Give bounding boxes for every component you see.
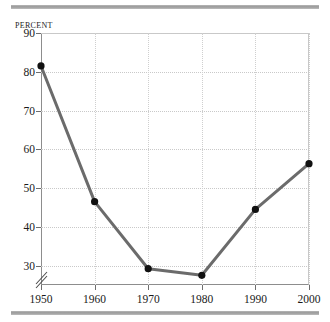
- y-tick-label: 60: [24, 143, 36, 155]
- x-tick-mark: [309, 285, 310, 290]
- data-point-marker: [198, 272, 205, 279]
- x-tick-label: 1990: [244, 293, 267, 305]
- data-point-marker: [305, 160, 312, 167]
- top-rule: [11, 5, 319, 9]
- x-tick-mark: [148, 285, 149, 290]
- data-point-marker: [145, 265, 152, 272]
- data-series-line: [41, 33, 309, 285]
- gridline-vertical: [309, 33, 310, 285]
- x-tick-mark: [255, 285, 256, 290]
- plot-area: 30405060708090 195019601970198019902000: [41, 33, 309, 285]
- x-tick-label: 1960: [83, 293, 106, 305]
- y-tick-label: 70: [24, 105, 36, 117]
- data-point-marker: [91, 198, 98, 205]
- y-tick-label: 40: [24, 221, 36, 233]
- chart-figure: Percent 30405060708090 19501960197019801…: [0, 0, 330, 322]
- x-tick-label: 1970: [137, 293, 160, 305]
- bottom-rule: [11, 311, 319, 315]
- y-tick-label: 50: [24, 182, 36, 194]
- data-point-marker: [37, 62, 44, 69]
- y-tick-label: 90: [24, 27, 36, 39]
- y-tick-label: 80: [24, 66, 36, 78]
- x-tick-mark: [202, 285, 203, 290]
- x-tick-label: 2000: [298, 293, 321, 305]
- x-tick-label: 1950: [30, 293, 53, 305]
- data-point-marker: [252, 206, 259, 213]
- series-polyline: [41, 66, 309, 275]
- y-axis-break-icon: [34, 269, 50, 289]
- x-tick-mark: [95, 285, 96, 290]
- x-tick-label: 1980: [190, 293, 213, 305]
